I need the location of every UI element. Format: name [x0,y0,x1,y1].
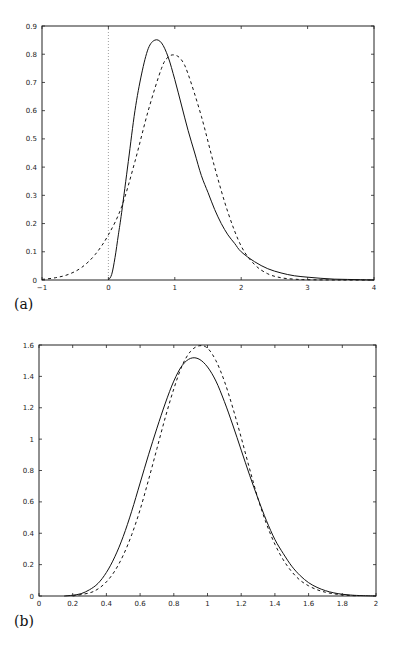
y-tick-label: 0.4 [23,530,35,538]
series-dashed-line [73,346,359,596]
y-tick-label: 0.8 [23,467,34,475]
panel-label-a: (a) [14,296,33,312]
y-tick-label: 0.4 [26,164,38,172]
y-tick-label: 0 [30,593,34,601]
y-tick-label: 1.6 [23,342,35,350]
x-tick-label: 0 [37,600,41,608]
x-tick-label: 1 [173,284,177,292]
x-tick-label: 2 [374,600,378,608]
x-tick-label: 0 [106,284,110,292]
y-tick-label: 0.6 [23,498,35,506]
y-tick-label: 0.2 [23,561,34,569]
x-tick-label: 1.4 [269,600,281,608]
x-tick-label: 1.2 [236,600,247,608]
y-tick-label: 1.2 [23,404,34,412]
x-tick-label: 0.6 [135,600,147,608]
y-tick-label: 0.6 [26,107,38,115]
y-tick-label: 0.8 [26,51,37,59]
x-tick-label: 1.6 [303,600,315,608]
x-tick-label: 2 [239,284,243,292]
x-tick-label: 4 [372,284,377,292]
panel-label-b: (b) [14,613,34,629]
figure: −10123400.10.20.30.40.50.60.70.80.9 00.2… [0,0,397,662]
y-tick-label: 0.3 [26,192,37,200]
chart-a: −10123400.10.20.30.40.50.60.70.80.9 [26,23,377,293]
y-tick-label: 0.2 [26,220,37,228]
y-tick-label: 0.7 [26,79,37,87]
y-tick-label: 1 [30,436,34,444]
y-tick-label: 0.5 [26,135,37,143]
x-tick-label: 0.2 [67,600,78,608]
y-tick-label: 0.1 [26,248,37,256]
x-tick-label: −1 [37,284,47,292]
chart-b: 00.20.40.60.811.21.41.61.8200.20.40.60.8… [23,342,378,609]
y-tick-label: 0 [33,277,37,285]
x-tick-label: 3 [305,284,309,292]
plot-frame [39,345,376,596]
series-solid-line [108,40,374,280]
y-tick-label: 0.9 [26,23,37,31]
plot-frame [42,26,374,280]
x-tick-label: 0.8 [168,600,179,608]
y-tick-label: 1.4 [23,373,35,381]
series-dashed-line [42,55,374,280]
x-tick-label: 1.8 [337,600,348,608]
series-solid-line [64,358,376,596]
x-tick-label: 0.4 [101,600,113,608]
x-tick-label: 1 [205,600,209,608]
